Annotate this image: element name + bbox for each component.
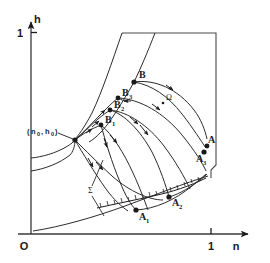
x-tick-1-label: 1 <box>208 240 214 252</box>
label-A: A <box>208 134 216 145</box>
point-A1 <box>133 207 138 212</box>
phase-portrait-figure: h 1 1 n O <box>0 0 270 263</box>
point-B1 <box>99 123 104 128</box>
label-B1-sub: 1 <box>112 120 115 127</box>
omega-region-label: Ω <box>166 93 172 102</box>
coord-h: h <box>45 127 50 136</box>
trajectory-B-A <box>134 81 207 148</box>
y-tick-1-label: 1 <box>17 27 23 39</box>
label-A3-sub: 3 <box>203 159 207 166</box>
point-A2 <box>166 194 171 199</box>
point-B <box>131 79 136 84</box>
coord-n-sub: 0 <box>37 131 40 137</box>
sigma-region-label: Σ <box>88 186 93 195</box>
label-A2-sub: 2 <box>179 203 182 210</box>
label-B2-main: B <box>114 99 121 110</box>
point-B2 <box>108 108 113 113</box>
coord-close-paren: ) <box>55 127 58 136</box>
trajectory-B1-A1 <box>101 125 148 210</box>
axes-group <box>18 22 248 234</box>
omega-tick <box>162 102 165 105</box>
coord-h-sub: 0 <box>51 131 54 137</box>
label-B: B <box>139 69 146 80</box>
coord-open-paren: ( <box>27 127 30 136</box>
coord-n: n <box>31 127 36 136</box>
y-axis-label: h <box>34 13 41 25</box>
coord-leader-line <box>58 133 73 139</box>
label-B3-main: B <box>122 87 129 98</box>
lower-left-curves <box>31 139 75 171</box>
trajectory-B3-arrows <box>124 101 160 110</box>
label-B2-sub: 2 <box>121 105 124 112</box>
figure-canvas: h 1 1 n O <box>0 0 270 263</box>
label-A1-sub: 1 <box>146 217 149 224</box>
point-initial <box>72 137 77 142</box>
sigma-leader-line-lower <box>92 196 104 216</box>
x-axis-label: n <box>233 240 240 252</box>
origin-label: O <box>20 240 29 252</box>
label-B1-main: B <box>105 114 112 125</box>
initial-condition-label: ( n 0 , h 0 ) <box>27 127 73 139</box>
coord-comma: , <box>41 127 43 136</box>
label-B3-sub: 3 <box>129 93 133 100</box>
